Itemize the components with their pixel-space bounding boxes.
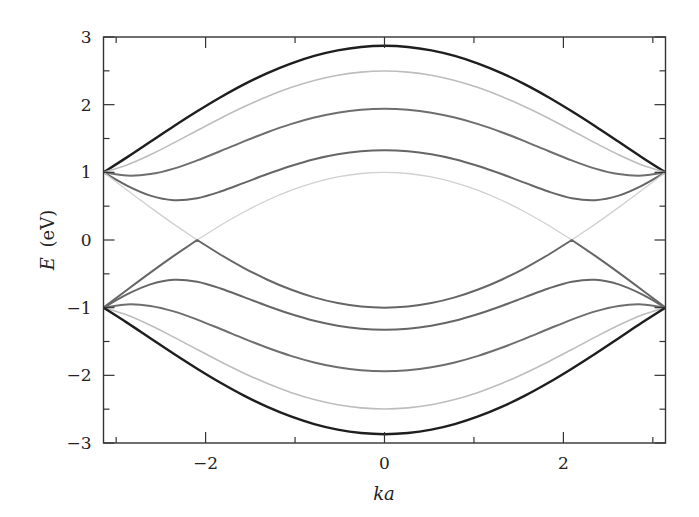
band-structure-chart: −202−3−2−10123 ka E (eV): [0, 0, 699, 517]
x-tick-label: 0: [379, 453, 390, 473]
y-axis-label: E (eV): [37, 210, 58, 272]
band-3-lower-curve: [104, 304, 666, 371]
band-4-upper-curve: [104, 150, 666, 200]
band-2-upper-curve: [104, 71, 666, 172]
x-axis-label: ka: [373, 483, 395, 504]
y-tick-label: 2: [81, 95, 92, 115]
x-axis-label-text: ka: [373, 483, 395, 504]
band-4-lower-curve: [104, 280, 666, 330]
y-tick-label: −3: [66, 433, 91, 453]
band-3-upper-curve: [104, 109, 666, 176]
y-tick-label: 3: [81, 27, 92, 47]
x-tick-label: 2: [558, 453, 569, 473]
band-5-lower-curve: [104, 240, 666, 308]
band-curves: [104, 46, 666, 434]
y-tick-label: 0: [81, 230, 92, 250]
band-2-lower-curve: [104, 308, 666, 409]
axis-ticks: [104, 37, 666, 443]
y-axis-label-var: E: [37, 257, 58, 271]
x-tick-label: −2: [193, 453, 218, 473]
y-tick-label: −2: [66, 365, 91, 385]
y-tick-label: 1: [81, 162, 92, 182]
y-tick-label: −1: [66, 298, 91, 318]
plot-frame: [104, 37, 666, 443]
band-5-upper-curve: [104, 172, 666, 240]
y-axis-label-unit: (eV): [37, 210, 58, 248]
